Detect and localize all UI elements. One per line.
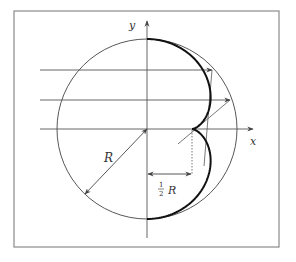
radius-label: R (103, 151, 113, 165)
half-r-label: 1 2 R (158, 181, 176, 198)
svg-text:2: 2 (159, 190, 163, 198)
radius-arrow (85, 129, 147, 194)
svg-text:1: 1 (159, 181, 163, 189)
caustic-diagram: x y R 1 2 R (0, 0, 296, 262)
x-axis-label: x (250, 135, 257, 148)
svg-text:R: R (167, 184, 176, 197)
y-axis-label: y (128, 19, 136, 32)
